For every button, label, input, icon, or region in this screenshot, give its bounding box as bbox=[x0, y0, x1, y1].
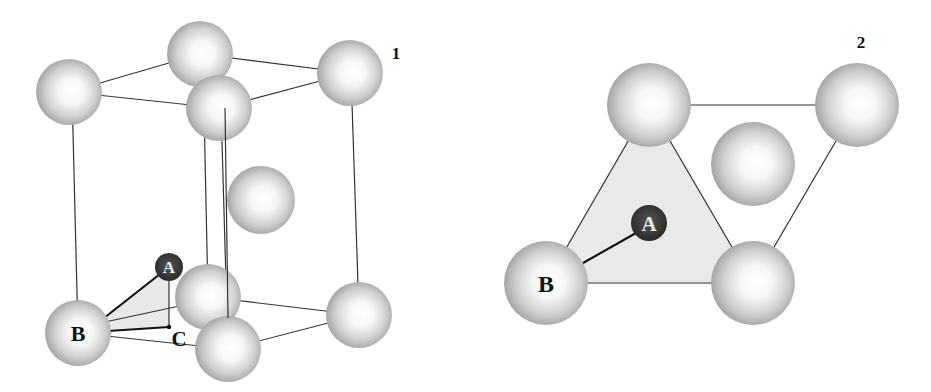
panel-label-2: 2 bbox=[857, 33, 866, 52]
panel-1-hcp-cell: A B C 1 bbox=[36, 21, 400, 382]
label-A: A bbox=[641, 212, 657, 236]
atom-top-right bbox=[317, 40, 383, 106]
label-B: B bbox=[71, 321, 86, 346]
atom-bottom-right bbox=[326, 282, 392, 348]
atom-middle bbox=[227, 166, 295, 234]
crystal-diagram: A B C 1 A B 2 bbox=[0, 0, 931, 392]
atom-top-front bbox=[186, 75, 252, 141]
label-B: B bbox=[538, 271, 554, 297]
atom-top-left bbox=[607, 63, 691, 147]
label-A: A bbox=[163, 258, 176, 277]
label-C: C bbox=[171, 327, 186, 351]
panel-label-1: 1 bbox=[392, 44, 401, 63]
interstitial-atom-A: A bbox=[155, 253, 183, 281]
atom-middle bbox=[711, 122, 795, 206]
panel-2-basal-projection: A B 2 bbox=[504, 33, 899, 325]
atom-bottom-right bbox=[711, 241, 795, 325]
interstitial-atom-A: A bbox=[631, 205, 667, 241]
atom-top-left bbox=[36, 59, 102, 125]
atom-top-right bbox=[815, 63, 899, 147]
atom-bottom-front bbox=[195, 316, 261, 382]
